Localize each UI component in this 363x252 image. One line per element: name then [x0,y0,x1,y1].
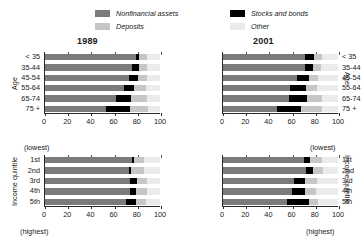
tick-bottom-80 [316,113,317,116]
panel-title-2001: 2001 [253,36,274,46]
legend-column-right: Stocks and bonds Other [230,7,308,33]
category-label-5th: 5th [342,197,363,206]
legend-swatch-deposits-icon [95,23,110,30]
segment-deposits [136,188,148,194]
segment-stocks [132,64,139,70]
segment-nonfinancial [223,167,306,173]
segment-stocks [305,54,314,60]
segment-nonfinancial [223,64,305,70]
x-tick-label-40: 40 [259,117,277,126]
bar-3rd [45,178,160,184]
segment-other [318,75,338,81]
tick-bottom-0 [223,113,224,116]
category-label--35: < 35 [0,52,40,61]
x-tick-label-60: 60 [105,210,123,219]
segment-stocks [289,95,307,101]
segment-stocks [126,199,136,205]
tick-top-100 [339,155,340,158]
segment-other [316,188,338,194]
category-label--35: < 35 [342,52,363,61]
segment-deposits [136,199,146,205]
segment-nonfinancial [45,157,132,163]
x-tick-label-80: 80 [128,117,146,126]
legend-swatch-stocks-icon [230,10,245,17]
segment-deposits [138,75,147,81]
legend-label-nonfinancial: Nonfinancial assets [116,9,178,18]
segment-nonfinancial [223,54,305,60]
segment-nonfinancial [45,178,130,184]
bar-65-74 [45,95,160,101]
segment-deposits [305,188,317,194]
segment-nonfinancial [223,106,277,112]
tick-bottom-80 [316,206,317,209]
bar--35 [45,54,160,60]
segment-other [318,199,338,205]
category-label-35-44: 35-44 [0,63,40,72]
category-label-2nd: 2nd [342,166,363,175]
tick-bottom-20 [68,113,69,116]
segment-stocks [130,178,137,184]
bar-4th [45,188,160,194]
segment-stocks [305,64,313,70]
tick-bottom-100 [339,113,340,116]
segment-other [144,167,160,173]
plot-area-age-1989 [44,52,160,114]
segment-deposits [309,199,318,205]
segment-deposits [301,106,322,112]
legend-swatch-nonfinancial-icon [95,10,110,17]
segment-nonfinancial [223,95,289,101]
figure-stacked-bar-asset-composition: Nonfinancial assets Deposits Stocks and … [0,0,363,252]
category-label-1st: 1st [342,155,363,164]
segment-stocks [116,95,131,101]
tick-top-100 [161,52,162,55]
x-tick-label-40: 40 [81,117,99,126]
segment-nonfinancial [45,54,136,60]
segment-deposits [131,167,144,173]
category-label-1st: 1st [0,155,40,164]
segment-stocks [290,85,306,91]
tick-bottom-80 [138,206,139,209]
segment-other [147,178,160,184]
segment-other [146,199,160,205]
x-tick-label-20: 20 [58,210,76,219]
segment-nonfinancial [45,85,124,91]
tick-bottom-100 [161,113,162,116]
segment-nonfinancial [223,157,304,163]
bar-4th [223,188,338,194]
bar-55-64 [45,85,160,91]
category-label-35-44: 35-44 [342,63,363,72]
category-label-4th: 4th [342,186,363,195]
category-label-3rd: 3rd [342,176,363,185]
segment-other [147,64,160,70]
category-label-55-64: 55-64 [0,83,40,92]
segment-other [323,167,338,173]
tick-bottom-100 [339,206,340,209]
bar-1st [45,157,160,163]
x-tick-label-20: 20 [58,117,76,126]
segment-other [317,85,338,91]
segment-nonfinancial [45,199,126,205]
segment-other [322,157,338,163]
tick-bottom-20 [246,113,247,116]
segment-stocks [304,157,311,163]
segment-other [147,54,160,60]
segment-nonfinancial [223,199,287,205]
legend-label-deposits: Deposits [116,22,144,31]
bar-1st [223,157,338,163]
tick-bottom-60 [293,113,294,116]
panel-quintile-1989 [44,155,160,207]
segment-stocks [129,75,138,81]
legend-label-other: Other [251,22,269,31]
tick-top-100 [339,52,340,55]
bar-3rd [223,178,338,184]
legend-item-other: Other [230,20,308,33]
segment-other [147,95,160,101]
bar-65-74 [223,95,338,101]
legend: Nonfinancial assets Deposits Stocks and … [95,7,363,33]
bar-75- [45,106,160,112]
segment-stocks [277,106,301,112]
category-label-65-74: 65-74 [0,94,40,103]
tick-bottom-20 [246,206,247,209]
segment-stocks [124,85,133,91]
legend-item-deposits: Deposits [95,20,178,33]
